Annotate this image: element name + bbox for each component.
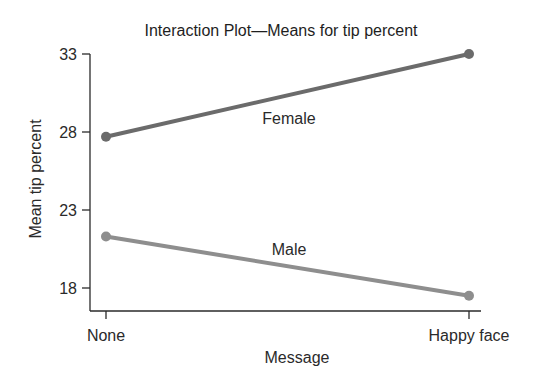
y-axis: 18232833 <box>59 46 90 311</box>
y-tick-label: 23 <box>59 202 77 219</box>
y-tick-label: 18 <box>59 280 77 297</box>
series-female <box>101 49 474 142</box>
x-axis: NoneHappy face <box>87 311 510 344</box>
x-tick-label: None <box>87 327 125 344</box>
data-point <box>101 132 111 142</box>
data-point <box>464 291 474 301</box>
data-point <box>101 232 111 242</box>
interaction-plot: Interaction Plot—Means for tip percent 1… <box>0 0 540 389</box>
y-tick-label: 33 <box>59 46 77 63</box>
data-point <box>464 49 474 59</box>
y-tick-label: 28 <box>59 124 77 141</box>
series-layer <box>101 49 474 301</box>
y-axis-label: Mean tip percent <box>27 119 44 239</box>
x-axis-label: Message <box>265 349 330 366</box>
x-tick-label: Happy face <box>429 327 510 344</box>
series-label-male: Male <box>272 241 307 258</box>
series-label-female: Female <box>262 110 315 127</box>
chart-title: Interaction Plot—Means for tip percent <box>144 22 418 39</box>
